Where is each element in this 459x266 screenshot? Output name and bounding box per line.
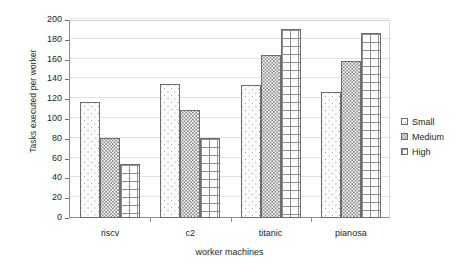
bar [120,164,140,218]
bar [241,85,261,218]
bar [200,138,220,218]
y-tick-label: 120 [30,93,62,103]
gridline [70,18,389,19]
legend: SmallMediumHigh [401,115,444,160]
x-tick-label: pianosa [311,228,391,238]
bar [100,138,120,218]
bar [261,55,281,218]
y-tick-mark [65,99,69,100]
legend-label: Small [412,117,435,127]
y-tick-label: 40 [30,172,62,182]
y-tick-mark [65,40,69,41]
y-tick-mark [65,60,69,61]
legend-swatch-medium [401,133,408,140]
bar-group [160,20,220,218]
legend-swatch-small [401,118,408,125]
legend-item-small[interactable]: Small [401,115,444,128]
bar [361,33,381,218]
x-tick-mark [311,218,312,222]
y-tick-label: 60 [30,153,62,163]
y-tick-mark [65,198,69,199]
y-tick-label: 20 [30,192,62,202]
y-tick-mark [65,119,69,120]
legend-item-medium[interactable]: Medium [401,130,444,143]
y-tick-mark [65,139,69,140]
x-tick-label: riscv [70,228,150,238]
x-tick-mark [150,218,151,222]
y-tick-label: 0 [30,212,62,222]
y-tick-label: 80 [30,133,62,143]
y-tick-mark [65,20,69,21]
legend-label: Medium [412,132,444,142]
y-tick-mark [65,178,69,179]
y-tick-label: 160 [30,54,62,64]
y-tick-label: 180 [30,34,62,44]
legend-swatch-high [401,148,408,155]
y-tick-label: 200 [30,14,62,24]
x-tick-mark [231,218,232,222]
bar-group [321,20,381,218]
x-tick-label: c2 [150,228,230,238]
bar-chart-figure: Tasks executed per worker 02040608010012… [0,0,459,266]
bar [80,102,100,218]
y-tick-label: 140 [30,73,62,83]
bar [321,92,341,218]
y-tick-label: 100 [30,113,62,123]
legend-label: High [412,147,431,157]
bar-group [241,20,301,218]
bar [180,110,200,218]
bar-group [80,20,140,218]
x-tick-label: titanic [231,228,311,238]
y-tick-mark [65,159,69,160]
bar-groups [70,20,390,218]
y-tick-mark [65,218,69,219]
bar [341,61,361,218]
legend-item-high[interactable]: High [401,145,444,158]
bar [160,84,180,218]
x-axis-title: worker machines [69,247,390,257]
bar [281,29,301,218]
y-tick-mark [65,79,69,80]
